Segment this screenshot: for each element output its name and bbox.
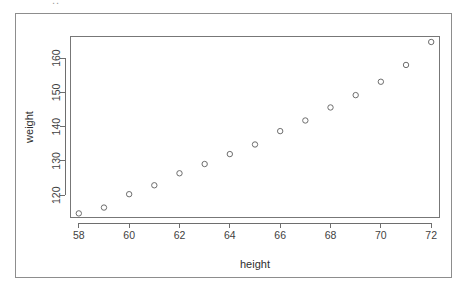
- y-tick-label: 140: [50, 118, 62, 136]
- y-tick-label: 160: [50, 49, 62, 67]
- data-point: [177, 171, 182, 176]
- x-tick-label: 62: [174, 229, 186, 241]
- data-point: [126, 191, 131, 196]
- data-point: [428, 39, 433, 44]
- data-point: [101, 205, 106, 210]
- y-axis: 120130140150160: [50, 49, 65, 204]
- y-tick-label: 150: [50, 83, 62, 101]
- data-point: [202, 161, 207, 166]
- data-point: [277, 128, 282, 133]
- scatter-plot-svg: 120130140150160 5860626466687072 height …: [0, 0, 466, 290]
- x-tick-label: 70: [375, 229, 387, 241]
- x-tick-label: 64: [224, 229, 236, 241]
- data-point: [76, 211, 81, 216]
- y-axis-title: weight: [23, 111, 35, 144]
- data-point: [227, 151, 232, 156]
- data-point: [403, 62, 408, 67]
- data-point-group: [76, 39, 434, 216]
- x-tick-label: 68: [325, 229, 337, 241]
- data-point: [152, 183, 157, 188]
- plot-box: [71, 37, 440, 218]
- data-point: [378, 79, 383, 84]
- x-axis: 5860626466687072: [73, 223, 437, 241]
- x-tick-label: 58: [73, 229, 85, 241]
- x-axis-title: height: [240, 258, 270, 270]
- x-tick-label: 66: [274, 229, 286, 241]
- x-tick-label: 60: [123, 229, 135, 241]
- data-point: [303, 118, 308, 123]
- y-tick-label: 120: [50, 186, 62, 204]
- figure-canvas: .. 120130140150160 5860626466687072 heig…: [0, 0, 466, 290]
- data-point: [252, 142, 257, 147]
- scatter-plot: 120130140150160 5860626466687072 height …: [0, 0, 466, 290]
- x-tick-label: 72: [425, 229, 437, 241]
- y-tick-label: 130: [50, 152, 62, 170]
- data-point: [353, 92, 358, 97]
- data-point: [328, 105, 333, 110]
